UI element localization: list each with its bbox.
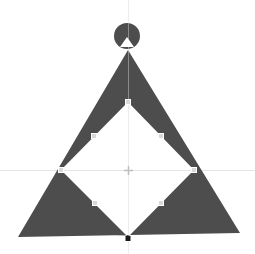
center-crosshair-icon: [124, 166, 133, 175]
top-vertex-handle[interactable]: [126, 100, 131, 105]
bottom-anchor-handle[interactable]: [126, 236, 131, 241]
upper-left-mid-handle[interactable]: [92, 134, 97, 139]
upper-right-mid-handle[interactable]: [159, 134, 164, 139]
diagram-canvas: [0, 0, 255, 254]
right-vertex-handle[interactable]: [192, 168, 197, 173]
lower-right-mid-handle[interactable]: [159, 201, 164, 206]
lower-left-mid-handle[interactable]: [93, 201, 98, 206]
left-vertex-handle[interactable]: [59, 168, 64, 173]
